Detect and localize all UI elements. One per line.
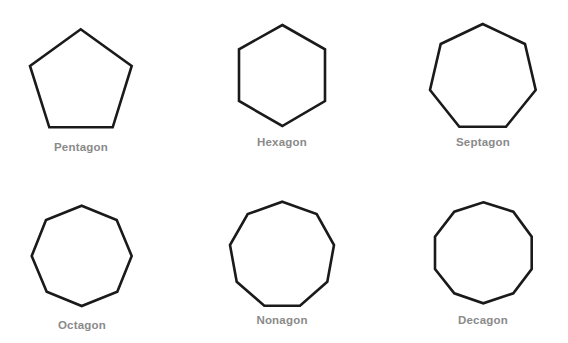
nonagon-shape [230,202,334,306]
septagon-label: Septagon [456,136,510,148]
nonagon-label: Nonagon [256,314,307,326]
decagon-shape [435,202,532,303]
octagon-label: Octagon [58,319,106,331]
octagon-shape [32,206,132,306]
decagon-label: Decagon [458,314,508,326]
hexagon-label: Hexagon [257,136,307,148]
hexagon-shape [239,25,325,126]
polygons-diagram [0,0,568,343]
pentagon-label: Pentagon [54,141,108,153]
septagon-shape [430,24,536,127]
pentagon-shape [30,29,132,127]
